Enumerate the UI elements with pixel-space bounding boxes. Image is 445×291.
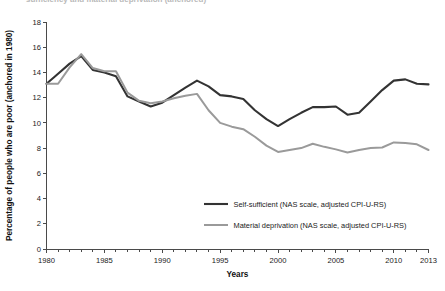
series-lines xyxy=(47,54,429,152)
line-chart: 024681012141618 198019851990199520002005… xyxy=(0,0,445,291)
y-tick-label: 10 xyxy=(33,119,41,128)
y-axis-ticks: 024681012141618 xyxy=(33,18,47,254)
y-tick-label: 2 xyxy=(37,219,41,228)
y-tick-label: 14 xyxy=(33,68,41,77)
x-tick-label: 2005 xyxy=(327,256,344,265)
y-tick-label: 18 xyxy=(33,18,41,27)
x-tick-label: 2000 xyxy=(270,256,287,265)
x-tick-label: 1990 xyxy=(154,256,171,265)
x-axis-title: Years xyxy=(227,270,249,279)
y-tick-label: 6 xyxy=(37,169,41,178)
chart-container: 024681012141618 198019851990199520002005… xyxy=(0,0,445,291)
y-tick-label: 12 xyxy=(33,93,41,102)
chart-legend: Self-sufficient (NAS scale, adjusted CPI… xyxy=(204,200,406,230)
x-tick-label: 2010 xyxy=(385,256,402,265)
y-axis-title: Percentage of people who are poor (ancho… xyxy=(5,30,14,241)
y-tick-label: 0 xyxy=(37,245,41,254)
x-tick-label: 1980 xyxy=(38,256,55,265)
y-tick-label: 8 xyxy=(37,144,41,153)
series-line-self-sufficient xyxy=(47,56,429,126)
x-axis-ticks: 19801985199019952000200520102013 xyxy=(38,249,437,265)
x-tick-label: 2013 xyxy=(420,256,437,265)
series-line-material-deprivation xyxy=(47,54,429,152)
x-tick-label: 1995 xyxy=(212,256,229,265)
x-tick-label: 1985 xyxy=(96,256,113,265)
y-tick-label: 4 xyxy=(37,194,41,203)
legend-label-1: Material deprivation (NAS scale, adjuste… xyxy=(234,221,407,230)
legend-label-0: Self-sufficient (NAS scale, adjusted CPI… xyxy=(234,200,387,209)
y-tick-label: 16 xyxy=(33,43,41,52)
